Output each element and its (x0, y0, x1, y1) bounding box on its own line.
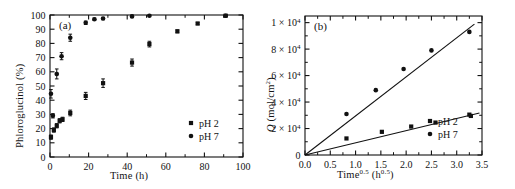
y-tick-label: 70 (36, 52, 46, 63)
legend-label: pH 2 (199, 118, 219, 129)
y-tick-label: 100 (31, 10, 46, 21)
data-point-ph-7 (429, 48, 434, 53)
panel-tag: (a) (59, 19, 72, 32)
figure-container: 0204060801000102030405060708090100(a)pH … (0, 0, 515, 189)
x-tick-label: 0.5 (324, 159, 337, 170)
legend-marker-square (189, 121, 193, 125)
data-point-ph-7 (344, 112, 349, 117)
data-point-ph-7 (467, 30, 472, 35)
data-point-ph-2 (130, 60, 134, 64)
data-point-ph-7 (147, 13, 152, 18)
data-point-ph-2 (68, 111, 72, 115)
y-tick-label: 50 (36, 81, 46, 92)
y-tick-label: 10 (36, 137, 46, 148)
data-point-ph-7 (83, 21, 88, 26)
x-tick-label: 3.0 (450, 159, 463, 170)
data-point-ph-2 (196, 21, 200, 25)
legend-label: pH 7 (438, 129, 458, 140)
panel-b-y-axis-title: Q (mol/cm2) (265, 77, 276, 132)
data-point-ph-7 (374, 88, 379, 93)
y-tick-label: 60 (36, 66, 46, 77)
legend-marker-circle (189, 134, 194, 139)
y-tick-label: 0 (41, 152, 46, 163)
panel-a-y-axis-title: Phloroglucinol (%) (14, 64, 25, 148)
data-point-ph-7 (51, 114, 56, 119)
data-point-ph-2 (49, 135, 53, 139)
legend-marker-circle (428, 132, 433, 137)
x-tick-label: 0 (48, 161, 53, 172)
y-tick-label: 20 (36, 123, 46, 134)
legend-label: pH 2 (438, 116, 458, 127)
x-tick-label: 60 (161, 161, 171, 172)
panel-b: 0.00.51.01.52.02.53.03.502 × 1044 × 1046… (257, 0, 515, 189)
data-point-ph-2 (380, 130, 384, 134)
x-tick-label: 0.0 (299, 159, 312, 170)
data-point-ph-2 (433, 120, 437, 124)
panel-b-x-axis-unit-close: ) (390, 169, 394, 180)
data-point-ph-7 (130, 14, 135, 19)
panel-b-x-axis-base: Time (337, 169, 360, 180)
y-tick-label: 0 (296, 150, 301, 161)
data-point-ph-2 (409, 124, 413, 128)
legend-marker-square (428, 119, 432, 123)
legend-label: pH 7 (199, 131, 219, 142)
data-point-ph-2 (175, 29, 179, 33)
data-point-ph-2 (60, 117, 64, 121)
panel-b-y-axis-unit-close: ) (265, 77, 276, 81)
panel-a-x-axis-title: Time (h) (110, 170, 148, 181)
x-tick-label: 2.5 (425, 159, 438, 170)
data-point-ph-7 (68, 35, 73, 40)
data-point-ph-7 (92, 17, 97, 22)
panel-a-plot: 0204060801000102030405060708090100(a)pH … (0, 0, 258, 189)
x-tick-label: 80 (199, 161, 209, 172)
x-tick-label: 2.0 (400, 159, 413, 170)
y-tick-label: 1 × 104 (271, 17, 301, 28)
panel-b-y-axis-unit-exponent: 2 (264, 81, 271, 85)
data-point-ph-7 (49, 92, 54, 97)
y-tick-label: 80 (36, 38, 46, 49)
panel-b-y-axis-unit: (mol/cm (265, 84, 276, 124)
x-tick-label: 100 (236, 161, 251, 172)
data-point-ph-2 (224, 14, 228, 18)
data-point-ph-7 (54, 72, 59, 77)
data-point-ph-2 (84, 94, 88, 98)
x-tick-label: 20 (84, 161, 94, 172)
y-tick-label: 30 (36, 109, 46, 120)
panel-tag: (b) (314, 20, 327, 33)
data-point-ph-7 (59, 54, 64, 59)
y-tick-label: 8 × 104 (271, 43, 301, 54)
x-tick-label: 3.5 (476, 159, 489, 170)
data-point-ph-2 (101, 81, 105, 85)
panel-b-x-axis-exponent: 0.5 (360, 168, 369, 175)
panel-b-x-axis-unit-open: (h (369, 169, 381, 180)
panel-b-plot: 0.00.51.01.52.02.53.03.502 × 1044 × 1046… (257, 0, 515, 189)
panel-b-x-axis-title: Time0.5 (h0.5) (337, 169, 394, 180)
data-point-ph-2 (55, 124, 59, 128)
panel-b-y-axis-symbol: Q (265, 124, 276, 132)
panel-a: 0204060801000102030405060708090100(a)pH … (0, 0, 258, 189)
y-tick-label: 40 (36, 95, 46, 106)
y-tick-label: 90 (36, 24, 46, 35)
data-point-ph-2 (344, 136, 348, 140)
data-point-ph-2 (147, 42, 151, 46)
panel-b-x-axis-unit-exponent: 0.5 (381, 168, 390, 175)
data-point-ph-2 (469, 114, 473, 118)
data-point-ph-2 (52, 128, 56, 132)
data-point-ph-7 (401, 67, 406, 72)
data-point-ph-7 (101, 16, 106, 21)
